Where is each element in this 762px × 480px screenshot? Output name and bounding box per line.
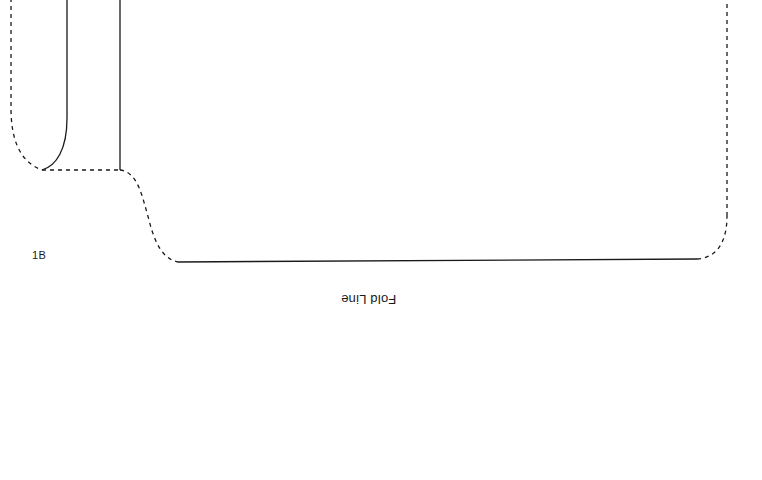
s-curve-cut-edge-path — [120, 170, 178, 262]
fold-line-label: Fold Line — [341, 293, 396, 306]
pattern-page: 1B Fold Line — [0, 0, 762, 480]
right-corner-cut-edge-path — [697, 216, 727, 259]
pattern-drawing — [0, 0, 762, 480]
left-cut-edge-path — [11, 0, 42, 170]
fold-edge-bottom-path — [178, 259, 697, 262]
inner-seam-left-path — [42, 0, 67, 170]
pattern-piece-id-label: 1B — [32, 250, 46, 261]
